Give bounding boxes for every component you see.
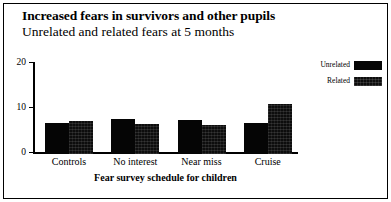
legend-label: Unrelated: [320, 61, 350, 69]
chart-title: Increased fears in survivors and other p…: [22, 8, 275, 23]
bar-unrelated-near-miss: [178, 120, 202, 154]
x-axis-title: Fear survey schedule for children: [33, 172, 298, 183]
bar-related-near-miss: [202, 125, 226, 154]
legend-item: Related: [302, 76, 382, 86]
bar-unrelated-cruise: [244, 123, 268, 155]
x-category-label: Cruise: [228, 156, 308, 168]
bar-unrelated-no-interest: [111, 119, 135, 154]
bar-related-no-interest: [135, 124, 159, 154]
legend-swatch-related: [354, 77, 382, 86]
bar-related-cruise: [268, 104, 292, 154]
bar-related-controls: [69, 121, 93, 154]
chart-legend: UnrelatedRelated: [302, 60, 382, 92]
chart-subtitle: Unrelated and related fears at 5 months: [22, 24, 234, 39]
chart-figure: Increased fears in survivors and other p…: [0, 0, 391, 202]
y-tick-label: 20: [8, 57, 26, 67]
legend-item: Unrelated: [302, 60, 382, 70]
legend-label: Related: [327, 77, 350, 85]
plot-area: [33, 62, 298, 154]
y-tick-label: 0: [8, 147, 26, 157]
y-tick-label: 10: [8, 102, 26, 112]
legend-swatch-unrelated: [354, 61, 382, 70]
bar-unrelated-controls: [45, 123, 69, 154]
